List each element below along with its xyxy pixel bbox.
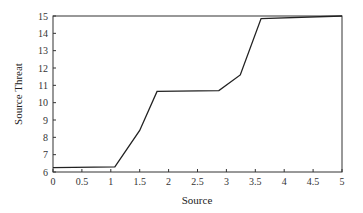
x-tick-label: 1 <box>108 176 113 187</box>
y-tick-label: 6 <box>43 167 48 178</box>
y-tick-label: 7 <box>43 149 48 160</box>
y-tick-label: 13 <box>38 45 48 56</box>
x-tick-label: 3 <box>224 176 229 187</box>
x-tick-label: 4.5 <box>307 176 320 187</box>
x-tick-label: 3.5 <box>249 176 262 187</box>
plot-area <box>53 16 342 172</box>
x-axis-label: Source <box>182 194 213 206</box>
x-tick-label: 0 <box>51 176 56 187</box>
y-tick-label: 15 <box>38 11 48 22</box>
data-line <box>53 16 342 168</box>
y-tick-label: 9 <box>43 115 48 126</box>
x-tick-label: 4 <box>282 176 287 187</box>
x-tick-label: 1.5 <box>133 176 146 187</box>
line-chart: 00.511.522.533.544.55 6789101112131415 S… <box>0 0 363 213</box>
x-tick-label: 0.5 <box>76 176 89 187</box>
x-tick-label: 2 <box>166 176 171 187</box>
x-tick-label: 5 <box>340 176 345 187</box>
y-tick-label: 14 <box>38 28 48 39</box>
x-tick-label: 2.5 <box>191 176 204 187</box>
y-tick-label: 12 <box>38 63 48 74</box>
y-tick-label: 8 <box>43 132 48 143</box>
y-axis-label: Source Threat <box>12 63 24 125</box>
y-tick-label: 11 <box>38 80 48 91</box>
y-tick-label: 10 <box>38 97 48 108</box>
plot-frame <box>53 16 342 172</box>
